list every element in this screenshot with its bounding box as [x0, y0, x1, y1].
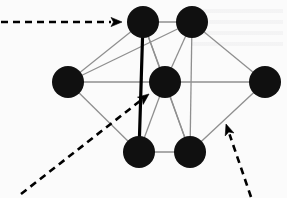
annotation-arrow-shaft: [21, 101, 140, 194]
graph-node: [174, 136, 206, 168]
edge: [190, 22, 192, 152]
node-layer: [52, 6, 281, 168]
annotation-arrow-head: [111, 17, 122, 26]
highlight-edge-layer: [139, 22, 143, 152]
annotation-arrow-shaft: [230, 134, 251, 197]
annotation-arrow-head: [225, 124, 234, 136]
annotation-layer: [1, 17, 251, 197]
graph-node: [127, 6, 159, 38]
highlighted-edge: [139, 22, 143, 152]
diagram-canvas: [0, 0, 287, 198]
graph-node: [149, 66, 181, 98]
graph-node: [123, 136, 155, 168]
graph-node: [176, 6, 208, 38]
graph-node: [249, 66, 281, 98]
graph-node: [52, 66, 84, 98]
graph-diagram: [0, 0, 287, 198]
